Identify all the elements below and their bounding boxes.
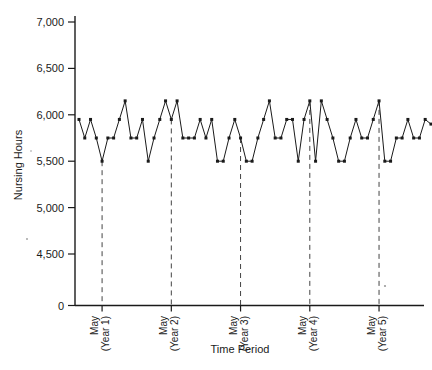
- x-category-label-year: (Year 2): [169, 316, 180, 351]
- x-category-label-year: (Year 5): [377, 316, 388, 351]
- data-point-marker: [78, 118, 81, 121]
- x-category-label-month: May: [297, 316, 308, 335]
- x-category-label-month: May: [158, 316, 169, 335]
- data-point-marker: [401, 137, 404, 140]
- data-point-marker: [303, 118, 306, 121]
- y-tick-label: 0: [58, 300, 64, 312]
- x-category-label-month: May: [366, 316, 377, 335]
- nursing-hours-series-line: [79, 101, 431, 161]
- data-point-marker: [262, 118, 265, 121]
- data-point-marker: [222, 160, 225, 163]
- data-point-marker: [279, 137, 282, 140]
- data-point-marker: [412, 137, 415, 140]
- data-point-marker: [297, 160, 300, 163]
- data-point-marker: [424, 118, 427, 121]
- data-point-marker: [372, 118, 375, 121]
- data-point-marker: [349, 137, 352, 140]
- data-point-marker: [320, 99, 323, 102]
- data-point-marker: [406, 118, 409, 121]
- data-point-marker: [228, 137, 231, 140]
- data-point-marker: [343, 160, 346, 163]
- y-axis-title: Nursing Hours: [12, 129, 24, 200]
- data-point-marker: [95, 137, 98, 140]
- data-point-marker: [181, 137, 184, 140]
- data-point-marker: [89, 118, 92, 121]
- y-tick-label: 5,500: [36, 155, 64, 167]
- data-point-marker: [233, 118, 236, 121]
- data-point-marker: [141, 118, 144, 121]
- data-point-marker: [164, 99, 167, 102]
- scan-artifact-speck-left: [26, 238, 28, 240]
- data-point-marker: [199, 118, 202, 121]
- data-point-marker: [366, 137, 369, 140]
- data-point-marker: [170, 118, 173, 121]
- data-point-marker: [274, 137, 277, 140]
- x-category-label-year: (Year 4): [308, 316, 319, 351]
- data-point-marker: [268, 99, 271, 102]
- data-point-marker: [395, 137, 398, 140]
- y-tick-label: 6,500: [36, 62, 64, 74]
- x-axis-title: Time Period: [211, 343, 270, 355]
- data-point-marker: [354, 118, 357, 121]
- x-category-label-month: May: [228, 316, 239, 335]
- data-point-marker: [285, 118, 288, 121]
- scan-artifact-speck-left-upper: [30, 150, 32, 152]
- data-point-marker: [418, 137, 421, 140]
- y-axis-tick-labels: 04,5005,0005,5006,0006,5007,000: [36, 16, 64, 312]
- data-point-marker: [308, 99, 311, 102]
- data-point-marker: [83, 137, 86, 140]
- scan-artifact-speck: [384, 285, 386, 287]
- data-point-marker: [389, 160, 392, 163]
- data-point-marker: [383, 160, 386, 163]
- data-point-marker: [245, 160, 248, 163]
- data-point-marker: [291, 118, 294, 121]
- data-point-marker: [153, 137, 156, 140]
- data-point-marker: [360, 137, 363, 140]
- data-point-marker: [124, 99, 127, 102]
- data-point-marker: [326, 118, 329, 121]
- x-category-label-year: (Year 1): [100, 316, 111, 351]
- chart-canvas: 04,5005,0005,5006,0006,5007,000 May(Year…: [0, 0, 432, 370]
- y-axis-ticks: [68, 22, 75, 306]
- data-point-marker: [239, 137, 242, 140]
- data-point-marker: [193, 137, 196, 140]
- data-point-marker: [106, 137, 109, 140]
- y-tick-label: 4,500: [36, 248, 64, 260]
- data-point-marker: [176, 99, 179, 102]
- data-point-marker: [158, 118, 161, 121]
- y-tick-label: 6,000: [36, 109, 64, 121]
- nursing-hours-chart: 04,5005,0005,5006,0006,5007,000 May(Year…: [0, 0, 432, 370]
- data-point-marker: [112, 137, 115, 140]
- data-point-marker: [378, 99, 381, 102]
- data-point-marker: [251, 160, 254, 163]
- data-point-marker: [204, 137, 207, 140]
- x-category-label-month: May: [89, 316, 100, 335]
- year-reference-lines: [102, 101, 379, 312]
- data-point-marker: [101, 160, 104, 163]
- data-point-marker: [331, 137, 334, 140]
- data-point-marker: [256, 137, 259, 140]
- data-point-marker: [147, 160, 150, 163]
- data-point-marker: [187, 137, 190, 140]
- data-point-marker: [135, 137, 138, 140]
- data-point-marker: [314, 160, 317, 163]
- data-point-marker: [216, 160, 219, 163]
- y-tick-label: 5,000: [36, 202, 64, 214]
- data-point-marker: [129, 137, 132, 140]
- data-point-marker: [210, 118, 213, 121]
- data-point-marker: [118, 118, 121, 121]
- data-point-marker: [337, 160, 340, 163]
- y-tick-label: 7,000: [36, 16, 64, 28]
